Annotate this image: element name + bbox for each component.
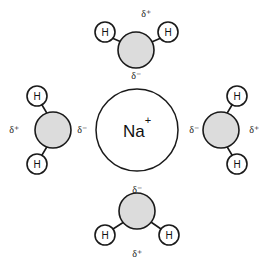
hydrogen-bottom-right-label: H <box>165 230 172 241</box>
hydrogen-right-bottom-label: H <box>233 159 240 170</box>
water-molecule-bottom: H H δ⁻ δ⁺ <box>95 184 179 259</box>
charge-left-positive: δ⁺ <box>9 124 19 135</box>
oxygen-atom-right <box>203 112 239 148</box>
charge-left-negative: δ⁻ <box>77 124 87 135</box>
hydrogen-left-top-label: H <box>33 91 40 102</box>
charge-right-positive: δ⁺ <box>249 124 259 135</box>
hydrogen-bottom-left-label: H <box>101 230 108 241</box>
water-molecule-right: H H δ⁻ δ⁺ <box>189 86 259 174</box>
charge-top-negative: δ⁻ <box>131 70 141 81</box>
diagram-svg-canvas: H H δ⁺ δ⁻ H H δ⁺ δ⁻ H H δ⁻ <box>0 0 269 266</box>
charge-bottom-positive: δ⁺ <box>132 248 142 259</box>
water-molecule-top: H H δ⁺ δ⁻ <box>95 8 178 81</box>
hydrogen-top-right-label: H <box>164 27 171 38</box>
hydrogen-top-left-label: H <box>101 27 108 38</box>
sodium-ion-symbol: Na <box>123 122 145 141</box>
oxygen-atom-top <box>118 32 154 68</box>
hydrogen-left-bottom-label: H <box>33 159 40 170</box>
oxygen-atom-left <box>35 112 71 148</box>
charge-top-positive: δ⁺ <box>141 8 151 19</box>
charge-right-negative: δ⁻ <box>189 124 199 135</box>
oxygen-atom-bottom <box>119 193 155 229</box>
charge-bottom-negative: δ⁻ <box>132 184 142 195</box>
water-molecule-left: H H δ⁺ δ⁻ <box>9 86 87 174</box>
hydration-diagram: H H δ⁺ δ⁻ H H δ⁺ δ⁻ H H δ⁻ <box>0 0 269 266</box>
sodium-ion-charge: + <box>145 114 151 126</box>
sodium-ion: Na+ <box>96 89 178 171</box>
hydrogen-right-top-label: H <box>233 91 240 102</box>
